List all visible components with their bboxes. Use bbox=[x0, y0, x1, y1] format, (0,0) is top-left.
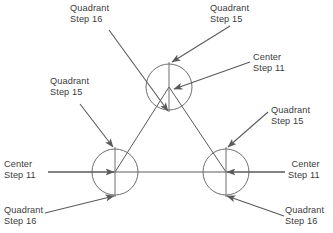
annotation-line-2: Step 16 bbox=[285, 216, 324, 227]
triangle-edge-top-left bbox=[115, 87, 169, 172]
annotation-line-2: Step 11 bbox=[4, 170, 36, 181]
annotation-right-middle-quadrant: Quadrant Step 15 bbox=[271, 105, 310, 126]
annotation-line-2: Step 15 bbox=[210, 14, 249, 25]
center-triangle bbox=[115, 87, 226, 172]
annotation-line-1: Quadrant bbox=[4, 205, 43, 216]
annotation-line-1: Quadrant bbox=[210, 3, 249, 14]
diagram-canvas: Quadrant Step 16 Quadrant Step 15 Center… bbox=[0, 0, 333, 233]
top-circle bbox=[146, 62, 192, 112]
annotation-line-1: Center bbox=[253, 52, 285, 63]
annotation-line-1: Quadrant bbox=[271, 105, 310, 116]
annotation-bottom-right-quadrant: Quadrant Step 16 bbox=[285, 205, 324, 226]
annotation-line-2: Step 11 bbox=[288, 170, 320, 181]
annotation-top-right-quadrant: Quadrant Step 15 bbox=[210, 3, 249, 24]
annotation-line-2: Step 11 bbox=[253, 63, 285, 74]
annotation-line-1: Quadrant bbox=[50, 76, 89, 87]
annotation-line-2: Step 16 bbox=[70, 14, 109, 25]
leader-arrow-top-right-quadrant bbox=[172, 26, 230, 62]
triangle-edge-top-right bbox=[169, 87, 226, 172]
annotation-right-center: Center Step 11 bbox=[288, 159, 320, 180]
leader-arrow-bottom-left-quadrant bbox=[45, 196, 114, 213]
leader-arrow-right-middle-quadrant bbox=[228, 112, 268, 147]
annotation-right-upper-center: Center Step 11 bbox=[253, 52, 285, 73]
leader-arrow-left-middle-quadrant bbox=[80, 104, 113, 147]
leader-arrow-top-left-quadrant bbox=[109, 30, 168, 111]
leader-arrow-bottom-right-quadrant bbox=[227, 196, 284, 216]
annotation-left-center: Center Step 11 bbox=[4, 159, 36, 180]
annotation-line-2: Step 16 bbox=[4, 216, 43, 227]
annotation-bottom-left-quadrant: Quadrant Step 16 bbox=[4, 205, 43, 226]
annotation-line-1: Center bbox=[288, 159, 320, 170]
annotation-line-1: Center bbox=[4, 159, 36, 170]
annotation-line-1: Quadrant bbox=[70, 3, 109, 14]
annotation-line-2: Step 15 bbox=[271, 116, 310, 127]
annotation-line-2: Step 15 bbox=[50, 87, 89, 98]
annotation-left-middle-quadrant: Quadrant Step 15 bbox=[50, 76, 89, 97]
annotation-top-left-quadrant: Quadrant Step 16 bbox=[70, 3, 109, 24]
leader-arrow-upper-center bbox=[174, 62, 250, 89]
annotation-line-1: Quadrant bbox=[285, 205, 324, 216]
